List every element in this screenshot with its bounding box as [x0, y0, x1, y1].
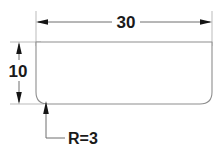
width-dimension-label: 30: [117, 13, 136, 32]
height-arrow-top-icon: [16, 42, 22, 54]
engineering-drawing-canvas: 30 10 R=3: [0, 0, 224, 154]
height-dimension-group: 10: [9, 42, 28, 104]
height-dimension-label: 10: [9, 62, 28, 81]
width-dimension-group: 30: [36, 13, 212, 32]
width-arrow-left-icon: [36, 19, 48, 25]
height-arrow-bottom-icon: [16, 92, 22, 104]
cad-drawing-svg: 30 10 R=3: [0, 0, 224, 154]
radius-callout-group: R=3: [43, 101, 98, 147]
part-outline-profile: [36, 42, 212, 104]
width-arrow-right-icon: [200, 19, 212, 25]
radius-callout-label: R=3: [68, 130, 98, 147]
